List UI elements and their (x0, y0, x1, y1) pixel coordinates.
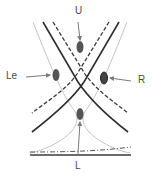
label-L: L (75, 161, 81, 171)
diagram-svg (0, 0, 153, 179)
arrow-L (78, 122, 80, 154)
label-U: U (75, 6, 82, 16)
arrow-R (110, 78, 131, 81)
marker-R (101, 72, 108, 84)
light-curve-right (83, 22, 130, 153)
dashed-curve-from-top-left (53, 22, 128, 113)
marker-Le (53, 69, 60, 81)
arrow-Le (26, 75, 50, 77)
marker-U (77, 41, 84, 53)
marker-L (77, 108, 84, 120)
arrow-U (78, 22, 80, 40)
label-R: R (138, 75, 145, 85)
light-curve-left (30, 22, 77, 153)
label-Le: Le (6, 71, 17, 81)
baseline-dash-dot (30, 147, 131, 152)
diagram-canvas: U Le R L (0, 0, 153, 179)
